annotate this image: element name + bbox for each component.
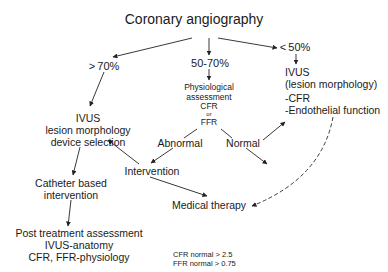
legend-cfr: CFR normal > 2.5	[173, 251, 232, 259]
intervention-label: Intervention	[125, 166, 180, 177]
arrow-normal-to-ivus-right	[263, 122, 285, 140]
physio-line-1: Physiological	[184, 83, 234, 92]
branch-intermediate-label: 50-70%	[191, 58, 229, 69]
ivus-left-line-2: lesion morphology	[45, 125, 130, 136]
arrow-intervention-to-medical	[150, 177, 207, 196]
ivus-right-line-3: -CFR	[285, 93, 310, 104]
result-normal-label: Normal	[226, 138, 260, 149]
arrow-abnormal-to-intervention	[151, 148, 173, 163]
branch-severe-label: > 70%	[89, 61, 120, 72]
physio-line-3: CFR	[200, 102, 217, 111]
ivus-right-line-4: -Endothelial function	[285, 105, 380, 116]
arrow-title-to-mild	[218, 38, 277, 48]
arrow-normal-to-medical	[246, 148, 267, 164]
physio-line-5: FFR	[201, 118, 218, 127]
flowchart-canvas: Coronary angiography > 70% 50-70% < 50% …	[0, 0, 388, 272]
ivus-left-line-3: device selection	[51, 137, 126, 148]
arrow-title-to-severe	[113, 38, 192, 57]
legend-ffr: FFR normal > 0.75	[173, 260, 236, 268]
ivus-left-line-1: IVUS	[76, 113, 101, 124]
medical-therapy-label: Medical therapy	[172, 200, 246, 211]
catheter-line-2: intervention	[44, 190, 98, 201]
arrow-catheter-to-post	[68, 200, 71, 226]
ivus-right-line-2: (lesion morphology)	[285, 79, 377, 90]
post-line-2: IVUS-anatomy	[45, 240, 113, 251]
arrow-severe-to-ivus	[90, 72, 104, 106]
post-line-3: CFR, FFR-physiology	[29, 252, 130, 263]
branch-mild-label: < 50%	[280, 42, 311, 53]
ivus-right-line-1: IVUS	[285, 67, 310, 78]
title-coronary-angiography: Coronary angiography	[125, 12, 264, 26]
arrow-ivus-to-catheter	[73, 147, 80, 175]
catheter-line-1: Catheter based	[35, 178, 107, 189]
post-line-1: Post treatment assessment	[15, 228, 142, 239]
result-abnormal-label: Abnormal	[158, 138, 203, 149]
